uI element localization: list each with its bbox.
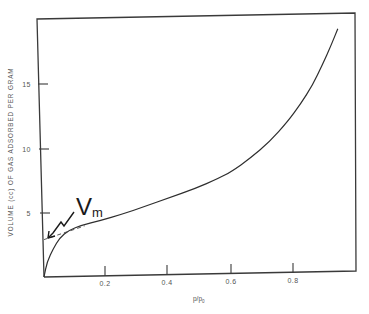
x-tick-label: 0.2 bbox=[99, 280, 110, 287]
y-ticks: 5 10 15 bbox=[22, 81, 50, 217]
x-tick-label: 0.4 bbox=[161, 279, 172, 286]
x-axis-label: p/p0 bbox=[193, 295, 205, 304]
bet-isotherm-chart: 5 10 15 0.2 0.4 0.6 0.8 VOLUME (cc) OF G… bbox=[0, 0, 369, 314]
y-tick-label: 15 bbox=[22, 81, 31, 88]
x-tick-label: 0.6 bbox=[225, 278, 236, 285]
x-tick-label: 0.8 bbox=[287, 277, 298, 284]
y-tick-label: 5 bbox=[27, 210, 31, 217]
y-axis-label: VOLUME (cc) OF GAS ADSORBED PER GRAM bbox=[7, 68, 15, 237]
vm-label: Vm bbox=[76, 193, 103, 220]
y-tick-label: 10 bbox=[22, 146, 31, 153]
vm-annotation: Vm bbox=[48, 193, 103, 238]
isotherm-curve bbox=[44, 29, 338, 277]
plot-frame bbox=[37, 13, 356, 277]
